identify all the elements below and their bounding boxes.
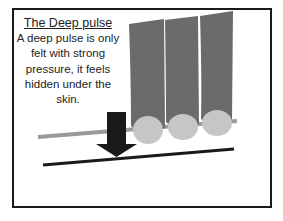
finger-1 [129,19,165,132]
deep-level-line [43,149,234,165]
finger-2 [165,16,199,128]
nail-3 [202,110,232,136]
nail-1 [133,116,163,144]
finger-3 [200,11,233,124]
down-arrow-icon [96,112,137,157]
pulse-illustration [0,0,283,221]
nail-2 [168,114,198,140]
